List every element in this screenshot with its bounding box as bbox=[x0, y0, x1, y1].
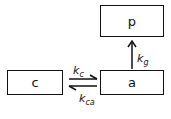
arrow-a-to-c bbox=[69, 86, 97, 90]
arrow-a-to-p bbox=[128, 41, 136, 69]
rate-label-kc: kc bbox=[73, 65, 84, 79]
rate-label-kca: kca bbox=[79, 93, 95, 107]
rate-label-kg: kg bbox=[137, 53, 148, 67]
